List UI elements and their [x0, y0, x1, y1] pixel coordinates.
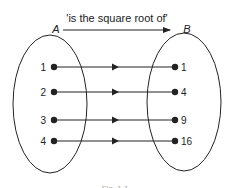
domain-value: 3: [40, 115, 46, 126]
arrowhead-icon: [112, 89, 119, 96]
domain-value: 1: [40, 62, 46, 73]
codomain-value: 4: [181, 87, 187, 98]
domain-value: 4: [40, 136, 46, 147]
mapping-row: 1 1: [40, 62, 187, 73]
codomain-value: 16: [181, 136, 193, 147]
codomain-value: 1: [181, 62, 187, 73]
relation-label: 'is the square root of': [66, 12, 167, 24]
set-b-ellipse: [147, 33, 221, 171]
set-a-label: A: [51, 23, 59, 35]
codomain-dot-icon: [172, 64, 178, 70]
arrowhead-icon: [112, 117, 119, 124]
mapping-diagram: 'is the square root of' A B 1 1 2 4 3 9 …: [0, 0, 229, 188]
mapping-row: 3 9: [40, 115, 187, 126]
codomain-dot-icon: [172, 138, 178, 144]
set-a-ellipse: [13, 35, 87, 173]
arrowhead-icon: [112, 138, 119, 145]
mapping-row: 2 4: [40, 87, 187, 98]
domain-value: 2: [40, 87, 46, 98]
codomain-dot-icon: [172, 89, 178, 95]
arrowhead-icon: [112, 64, 119, 71]
figure-caption: Fig. 1.1: [102, 184, 129, 188]
codomain-value: 9: [181, 115, 187, 126]
mapping-row: 4 16: [40, 136, 192, 147]
codomain-dot-icon: [172, 117, 178, 123]
